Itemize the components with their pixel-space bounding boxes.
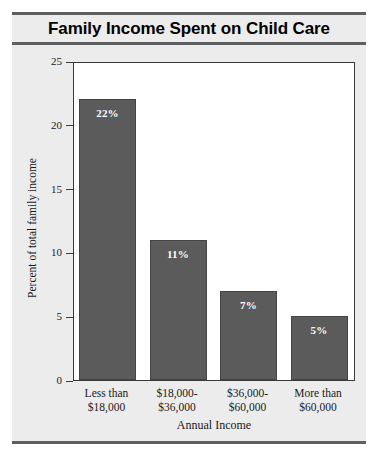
bar: 5% [291, 316, 348, 380]
y-axis-tick [66, 189, 73, 190]
y-axis-tick [66, 125, 73, 126]
bar: 22% [79, 99, 136, 380]
bar-value-label: 5% [292, 324, 347, 336]
x-axis-category-line: More than [273, 386, 363, 400]
y-axis-tick [66, 62, 73, 63]
bar: 11% [150, 240, 207, 380]
y-axis-tick [66, 381, 73, 382]
x-axis-category-line: $60,000 [273, 400, 363, 414]
bar-value-label: 22% [80, 107, 135, 119]
chart-figure: Family Income Spent on Child Care 051015… [0, 0, 378, 451]
chart-title: Family Income Spent on Child Care [12, 16, 366, 42]
divider-top [12, 12, 366, 15]
bar-value-label: 7% [221, 299, 276, 311]
y-axis-tick-label: 25 [22, 55, 62, 67]
bar: 7% [220, 291, 277, 380]
bar-value-label: 11% [151, 248, 206, 260]
divider-bottom [12, 441, 366, 444]
x-axis-category-label: More than$60,000 [273, 386, 363, 414]
x-axis-title: Annual Income [73, 418, 355, 433]
y-axis-tick [66, 317, 73, 318]
bars-container: 22%11%7%5% [74, 63, 354, 380]
plot-area: 22%11%7%5% [73, 62, 355, 381]
y-axis-title: Percent of total family income [26, 128, 38, 328]
y-axis-tick [66, 253, 73, 254]
divider-under-title [12, 42, 366, 45]
y-axis-tick-label: 0 [22, 374, 62, 386]
